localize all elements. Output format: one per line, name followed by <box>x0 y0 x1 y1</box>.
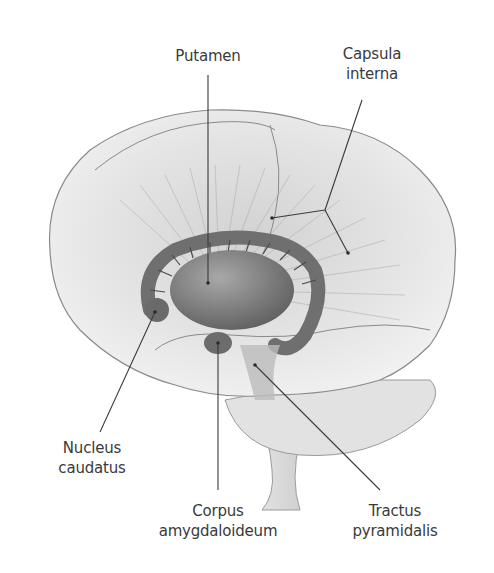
label-tractus-line1: Tractus <box>340 501 450 521</box>
label-tractus-line2: pyramidalis <box>340 521 450 541</box>
label-nucleus-line1: Nucleus <box>42 438 142 458</box>
label-corpus-line1: Corpus <box>148 501 288 521</box>
putamen-shape <box>170 250 294 330</box>
label-capsula-line1: Capsula <box>322 44 422 64</box>
label-putamen-text: Putamen <box>175 47 240 65</box>
caudate-head <box>145 298 169 322</box>
label-nucleus-caudatus: Nucleus caudatus <box>42 438 142 478</box>
label-corpus-amygdaloideum: Corpus amygdaloideum <box>148 501 288 541</box>
label-corpus-line2: amygdaloideum <box>148 521 288 541</box>
label-nucleus-line2: caudatus <box>42 458 142 478</box>
label-capsula-line2: interna <box>322 64 422 84</box>
brain-illustration <box>0 0 494 573</box>
label-capsula-interna: Capsula interna <box>322 44 422 84</box>
label-putamen: Putamen <box>158 46 258 66</box>
label-tractus-pyramidalis: Tractus pyramidalis <box>340 501 450 541</box>
